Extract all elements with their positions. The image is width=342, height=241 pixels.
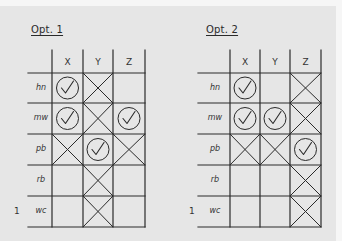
column-header-z: Z — [290, 57, 321, 67]
check-circle-icon — [234, 108, 256, 130]
row-label-hn: hn — [200, 83, 230, 92]
row-label-wc: wc — [200, 206, 230, 215]
cross-icon — [290, 196, 321, 227]
check-circle-icon — [234, 77, 256, 99]
row-label-pb: pb — [200, 144, 230, 153]
cross-icon — [290, 103, 321, 134]
check-circle-icon — [295, 139, 317, 161]
cross-icon — [290, 73, 321, 103]
cross-icon — [230, 134, 260, 165]
column-header-x: X — [230, 57, 260, 67]
column-header-y: Y — [260, 57, 290, 67]
grid-lines — [0, 0, 342, 241]
cross-icon — [290, 165, 321, 196]
row-marker: 1 — [189, 206, 195, 216]
row-label-rb: rb — [200, 175, 230, 184]
row-label-mw: mw — [200, 113, 230, 122]
cross-icon — [260, 134, 290, 165]
check-circle-icon — [264, 108, 286, 130]
